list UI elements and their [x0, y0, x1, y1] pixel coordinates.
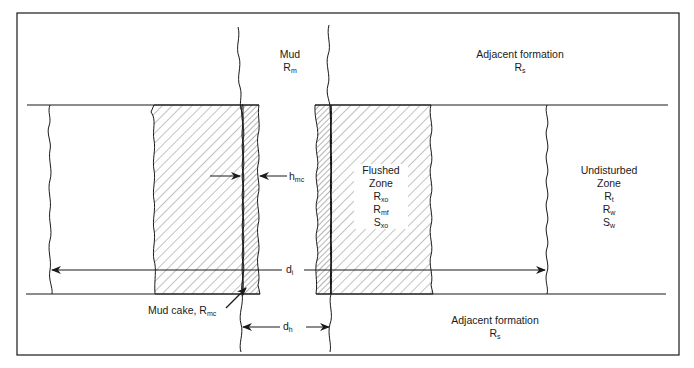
undisturbed-param-sw: Sw: [574, 216, 644, 229]
flushed-zone-label: Flushed Zone Rxo Rmf Sxo: [354, 164, 408, 229]
mud-cake-left: [242, 105, 260, 294]
flushed-title2: Zone: [356, 177, 406, 190]
undisturbed-title: Undisturbed: [574, 164, 644, 177]
invasion-boundary-right: [546, 105, 548, 294]
dh-label: dh: [283, 320, 293, 333]
flushed-param-rmf: Rmf: [356, 203, 406, 216]
adjacent-bottom-symbol: Rs: [430, 327, 560, 340]
undisturbed-param-rw: Rw: [574, 203, 644, 216]
flushed-param-rxo: Rxo: [356, 190, 406, 203]
flushed-zone-left: [151, 105, 243, 294]
mud-symbol: Rm: [268, 61, 312, 74]
adjacent-bottom-title: Adjacent formation: [430, 314, 560, 327]
adjacent-top-title: Adjacent formation: [450, 48, 590, 61]
mud-title: Mud: [268, 48, 312, 61]
mud-label: Mud Rm: [268, 48, 312, 74]
undisturbed-title2: Zone: [574, 177, 644, 190]
adjacent-formation-top-label: Adjacent formation Rs: [450, 48, 590, 74]
di-label: di: [284, 263, 295, 276]
invasion-boundary-left: [48, 105, 52, 294]
undisturbed-zone-label: Undisturbed Zone Rt Rw Sw: [574, 164, 644, 229]
adjacent-formation-bottom-label: Adjacent formation Rs: [430, 314, 560, 340]
mud-cake-right: [315, 105, 332, 294]
flushed-param-sxo: Sxo: [356, 216, 406, 229]
hmc-label: hmc: [289, 170, 304, 183]
mud-cake-label: Mud cake, Rmc: [148, 304, 216, 317]
undisturbed-param-rt: Rt: [574, 190, 644, 203]
flushed-title: Flushed: [356, 164, 406, 177]
adjacent-top-symbol: Rs: [450, 61, 590, 74]
